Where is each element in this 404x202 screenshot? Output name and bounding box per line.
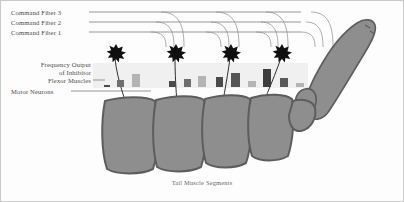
- bar-g2-s2: [184, 79, 191, 87]
- bar-g3-s2: [231, 73, 240, 87]
- muscle-segment-tail-joint: [289, 100, 315, 131]
- bar-g2-s3: [198, 76, 206, 87]
- muscle-segment-1: [102, 97, 158, 173]
- muscle-segment-3: [202, 95, 252, 167]
- figure-container: Command Fiber 3 Command Fiber 2 Command …: [0, 0, 404, 202]
- synapse-nodes: [107, 44, 292, 63]
- bar-g4-s1: [263, 69, 271, 87]
- muscle-segment-2: [153, 96, 206, 171]
- bar-g4-s3: [296, 83, 304, 87]
- bar-g1-s2: [117, 80, 124, 87]
- bar-g1-s3: [132, 74, 140, 87]
- synapse-1: [107, 44, 126, 63]
- diagram-svg: [1, 1, 404, 202]
- synapse-2: [167, 44, 186, 63]
- muscle-segments: [102, 95, 315, 174]
- bar-g3-s3: [248, 81, 256, 87]
- bar-g1-s1: [104, 85, 110, 87]
- bar-g4-s2: [280, 78, 288, 87]
- bar-g2-s1: [169, 81, 176, 87]
- command-fiber-branches: [151, 12, 333, 47]
- muscle-segment-4: [248, 95, 293, 161]
- synapse-4: [273, 44, 292, 63]
- synapse-3: [222, 44, 241, 63]
- bar-g3-s1: [216, 77, 223, 87]
